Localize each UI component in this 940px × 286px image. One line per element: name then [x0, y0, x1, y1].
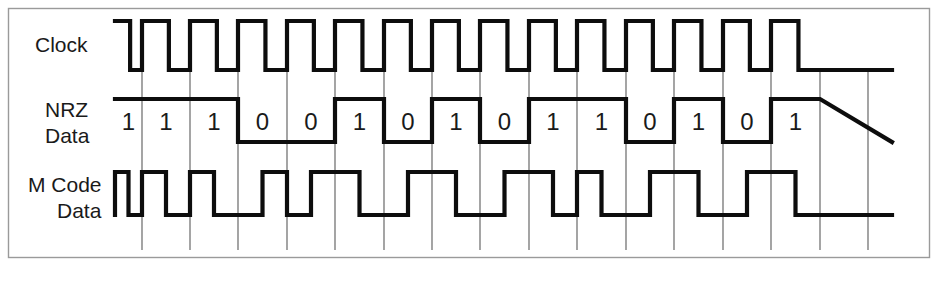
nrz-bit-value: 1: [353, 108, 366, 135]
nrz-bit-value: 1: [546, 108, 559, 135]
nrz-bit-value: 1: [207, 108, 220, 135]
nrz-bit-value: 0: [498, 108, 511, 135]
nrz-bit-value: 1: [789, 108, 802, 135]
nrz-label-line2: Data: [45, 124, 90, 147]
mcode-label-line2: Data: [57, 199, 102, 222]
nrz-label-line1: NRZ: [45, 98, 88, 121]
nrz-bit-value: 1: [122, 108, 135, 135]
nrz-bit-value: 1: [159, 108, 172, 135]
nrz-bit-value: 1: [449, 108, 462, 135]
nrz-bit-value: 0: [304, 108, 317, 135]
nrz-bit-value: 1: [595, 108, 608, 135]
nrz-bit-value: 0: [740, 108, 753, 135]
timing-diagram-figure: Clock NRZ Data M Code Data 1110010101101…: [0, 0, 940, 286]
nrz-bit-value: 0: [643, 108, 656, 135]
clock-label: Clock: [35, 33, 88, 56]
nrz-bit-value: 0: [256, 108, 269, 135]
mcode-label-line1: M Code: [28, 173, 102, 196]
nrz-bit-value: 1: [692, 108, 705, 135]
nrz-bit-value: 0: [401, 108, 414, 135]
timing-diagram-canvas: Clock NRZ Data M Code Data 1110010101101…: [0, 0, 940, 286]
